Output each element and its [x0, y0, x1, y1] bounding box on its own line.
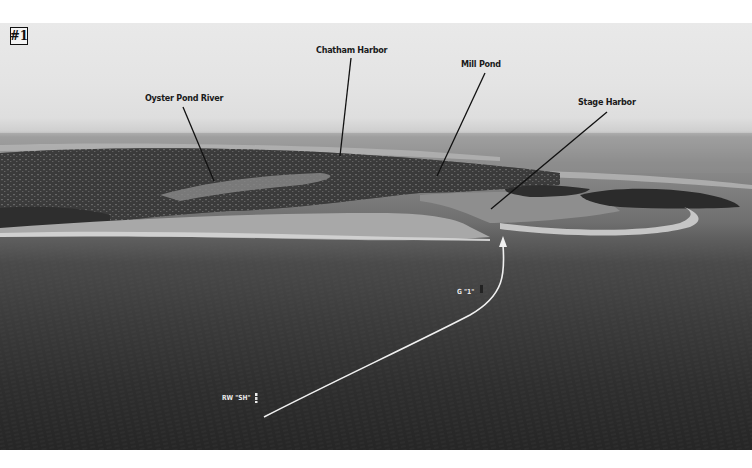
course-arrowhead-icon	[499, 236, 507, 247]
buoy-label-g1: G "1"	[457, 288, 474, 296]
callout-chatham-harbor: Chatham Harbor	[316, 44, 387, 55]
annotation-overlay	[0, 23, 752, 450]
rw-buoy-icon	[255, 393, 258, 403]
leader-line-mill-pond	[437, 73, 485, 176]
callout-mill-pond: Mill Pond	[461, 58, 501, 69]
callout-oyster-pond-river: Oyster Pond River	[145, 92, 223, 103]
leader-line-chatham-harbor	[340, 58, 351, 156]
leader-line-stage-harbor	[491, 112, 607, 209]
figure-number-badge: #1	[10, 27, 28, 45]
callout-stage-harbor: Stage Harbor	[578, 96, 636, 107]
leader-line-oyster-pond-river	[183, 107, 214, 181]
aerial-photo	[0, 23, 752, 450]
green-can-buoy-icon	[480, 285, 483, 293]
buoy-label-rw-sh: RW "SH"	[222, 394, 251, 402]
approach-course-line	[264, 245, 504, 417]
